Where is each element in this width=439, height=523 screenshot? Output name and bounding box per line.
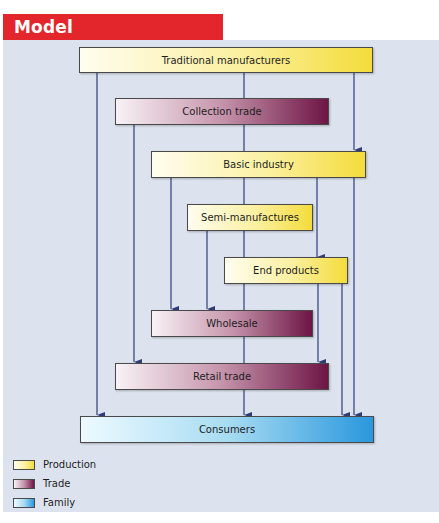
legend-item-family: Family bbox=[13, 497, 75, 508]
legend-swatch-family bbox=[13, 498, 35, 508]
node-label: Wholesale bbox=[206, 318, 258, 329]
legend-swatch-trade bbox=[13, 479, 35, 489]
node-consumers: Consumers bbox=[80, 416, 374, 443]
legend-label: Family bbox=[43, 497, 75, 508]
node-traditional-manufacturers: Traditional manufacturers bbox=[79, 47, 373, 73]
node-collection-trade: Collection trade bbox=[115, 98, 329, 125]
node-label: Retail trade bbox=[193, 371, 251, 382]
node-label: Collection trade bbox=[182, 106, 261, 117]
legend-item-production: Production bbox=[13, 459, 96, 470]
legend-item-trade: Trade bbox=[13, 478, 70, 489]
node-basic-industry: Basic industry bbox=[151, 151, 366, 178]
node-label: Semi-manufactures bbox=[201, 212, 299, 223]
legend-label: Trade bbox=[43, 478, 70, 489]
node-semi-manufactures: Semi-manufactures bbox=[187, 204, 313, 231]
node-label: End products bbox=[253, 265, 319, 276]
node-wholesale: Wholesale bbox=[151, 310, 313, 337]
node-retail-trade: Retail trade bbox=[115, 363, 329, 390]
node-label: Traditional manufacturers bbox=[162, 55, 291, 66]
legend-label: Production bbox=[43, 459, 96, 470]
node-end-products: End products bbox=[224, 257, 348, 284]
node-label: Basic industry bbox=[223, 159, 294, 170]
legend-swatch-production bbox=[13, 460, 35, 470]
flow-arrows bbox=[0, 0, 439, 523]
node-label: Consumers bbox=[199, 424, 255, 435]
